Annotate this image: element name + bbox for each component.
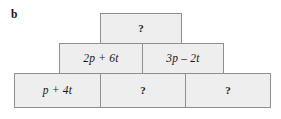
figure-part-label: b xyxy=(11,8,18,20)
pyramid-cell-bottom-0[interactable]: p + 4t xyxy=(14,73,101,108)
pyramid-row-middle: 2p + 6t 3p – 2t xyxy=(59,43,224,74)
pyramid-cell-middle-1[interactable]: 3p – 2t xyxy=(142,43,224,74)
pyramid-cell-bottom-2[interactable]: ? xyxy=(185,73,271,108)
pyramid-row-bottom: p + 4t ? ? xyxy=(14,73,271,108)
pyramid-row-top: ? xyxy=(100,13,182,44)
pyramid-cell-top-0[interactable]: ? xyxy=(100,13,182,44)
pyramid-cell-bottom-1[interactable]: ? xyxy=(100,73,186,108)
algebra-pyramid-figure: b ? 2p + 6t 3p – 2t p + 4t ? ? xyxy=(0,0,281,119)
pyramid-cell-middle-0[interactable]: 2p + 6t xyxy=(59,43,143,74)
